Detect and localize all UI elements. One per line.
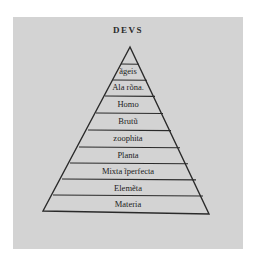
band-divider <box>88 130 171 131</box>
level-materia: Materia <box>0 199 256 209</box>
level-mixta-imperfecta: Mixta ĩperfecta <box>0 166 256 176</box>
level-angeli: ãgeis <box>0 66 256 76</box>
pyramid-outline <box>0 0 256 264</box>
band-divider <box>79 147 180 148</box>
level-anima-rationalis: Ala rõna. <box>0 82 256 92</box>
level-planta: Planta <box>0 150 256 160</box>
band-divider <box>96 113 163 114</box>
level-brutum: Brutũ <box>0 116 256 126</box>
level-zoophita: zoophita <box>0 133 256 143</box>
band-divider <box>70 163 188 164</box>
level-homo: Homo <box>0 99 256 109</box>
band-divider <box>53 195 203 196</box>
band-divider <box>62 179 196 180</box>
level-elementa: Elemẽta <box>0 183 256 193</box>
